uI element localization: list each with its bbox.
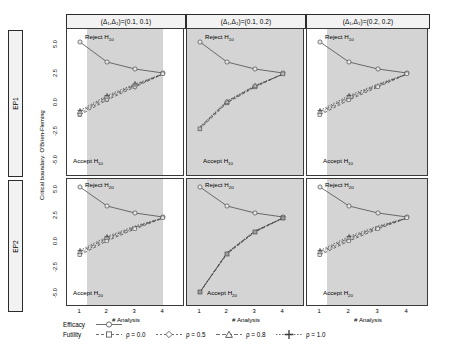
x-tick-col3-2: 2 bbox=[343, 308, 353, 314]
annotation-reject-sub: 10 bbox=[109, 37, 114, 42]
shaded-region bbox=[327, 179, 427, 305]
annotation-accept-ep2-col3: Accept H20 bbox=[323, 289, 353, 298]
annotation-accept-ep1-col1: Accept H10 bbox=[73, 157, 103, 166]
futility-marker-square bbox=[281, 72, 285, 76]
annotation-reject-text: Reject H bbox=[85, 33, 109, 40]
x-tick-col2-1: 1 bbox=[194, 308, 204, 314]
futility-marker-square bbox=[281, 216, 285, 220]
efficacy-marker bbox=[225, 60, 229, 64]
x-tick-col1-2: 2 bbox=[101, 308, 111, 314]
legend-rho-00: ρ = 0.0 bbox=[126, 331, 146, 338]
efficacy-marker bbox=[376, 67, 380, 71]
annotation-accept-ep2-col1: Accept H20 bbox=[73, 289, 103, 298]
y-tick-ep1-3: -2.5 bbox=[52, 123, 58, 139]
y-tick-ep2-0: 5.0 bbox=[52, 181, 58, 197]
panel-ep1-col2[interactable]: Reject H10 Accept H10 bbox=[186, 28, 304, 176]
futility-marker-square bbox=[225, 252, 229, 256]
futility-marker-square bbox=[161, 216, 165, 220]
column-header-1: (Δ₁,Δ₂)=(0.1, 0.1) bbox=[66, 14, 186, 29]
x-tick-col2-3: 3 bbox=[249, 308, 259, 314]
panel-ep2-col3[interactable]: Reject H20 Accept H20 bbox=[306, 178, 428, 306]
annotation-reject-text: Reject H bbox=[325, 181, 349, 188]
futility-marker-square bbox=[133, 227, 137, 231]
x-tick-col3-3: 3 bbox=[372, 308, 382, 314]
column-header-2-label: (Δ₁,Δ₂)=(0.1, 0.2) bbox=[221, 18, 271, 25]
annotation-accept-text: Accept H bbox=[73, 289, 98, 296]
x-tick-col1-3: 3 bbox=[129, 308, 139, 314]
row-header-ep2-label: EP2 bbox=[12, 240, 19, 252]
panel-ep1-col1-plot bbox=[67, 29, 183, 175]
x-tick-col3-4: 4 bbox=[401, 308, 411, 314]
annotation-reject-ep2-col1: Reject H20 bbox=[85, 181, 114, 190]
annotation-accept-sub: 20 bbox=[98, 293, 103, 298]
annotation-accept-text: Accept H bbox=[73, 157, 98, 164]
row-header-ep1-label: EP1 bbox=[12, 97, 19, 109]
efficacy-marker bbox=[105, 204, 109, 208]
legend-efficacy-marker bbox=[96, 320, 122, 329]
annotation-reject-ep1-col2: Reject H10 bbox=[205, 33, 234, 42]
annotation-reject-text: Reject H bbox=[205, 33, 229, 40]
futility-marker-square bbox=[161, 72, 165, 76]
y-tick-ep2-3: -2.5 bbox=[52, 259, 58, 275]
x-axis-title-col2: # Analysis bbox=[216, 316, 276, 323]
futility-marker-square bbox=[405, 216, 409, 220]
futility-marker-square bbox=[198, 290, 202, 294]
shaded-region bbox=[187, 29, 303, 175]
unshaded-region bbox=[163, 179, 183, 305]
efficacy-marker bbox=[376, 211, 380, 215]
efficacy-marker bbox=[133, 211, 137, 215]
efficacy-marker bbox=[253, 211, 257, 215]
column-header-3: (Δ₁,Δ₂)=(0.2, 0.2) bbox=[306, 14, 430, 29]
panel-ep1-col1[interactable]: Reject H10 Accept H10 bbox=[66, 28, 184, 176]
y-axis-title: Critical boundary: O'Brien-Fleming bbox=[39, 110, 45, 200]
annotation-accept-sub: 10 bbox=[348, 161, 353, 166]
efficacy-marker bbox=[347, 204, 351, 208]
panel-ep1-col3[interactable]: Reject H10 Accept H10 bbox=[306, 28, 428, 176]
y-tick-ep2-2: 0.0 bbox=[52, 233, 58, 249]
legend-triangle-marker bbox=[216, 330, 242, 339]
annotation-reject-ep2-col2: Reject H20 bbox=[205, 181, 234, 190]
annotation-reject-sub: 20 bbox=[349, 185, 354, 190]
panel-ep2-col1[interactable]: Reject H20 Accept H20 bbox=[66, 178, 184, 306]
panel-ep2-col2[interactable]: Reject H20 Accept H20 bbox=[186, 178, 304, 306]
efficacy-marker bbox=[133, 67, 137, 71]
legend-futility-label: Futility bbox=[63, 331, 81, 338]
futility-marker-square bbox=[376, 227, 380, 231]
panel-ep1-col2-plot bbox=[187, 29, 303, 175]
y-tick-ep1-4: -5.0 bbox=[52, 152, 58, 168]
row-header-ep1: EP1 bbox=[8, 30, 23, 177]
futility-marker-square bbox=[198, 127, 202, 131]
annotation-reject-ep2-col3: Reject H20 bbox=[325, 181, 354, 190]
unshaded-region bbox=[163, 29, 183, 175]
legend-diamond-marker bbox=[156, 330, 182, 339]
futility-marker-square bbox=[376, 85, 380, 89]
futility-marker-square bbox=[405, 72, 409, 76]
annotation-reject-text: Reject H bbox=[205, 181, 229, 188]
y-tick-ep2-4: -5.0 bbox=[52, 285, 58, 301]
row-header-ep2: EP2 bbox=[8, 180, 23, 312]
x-tick-col3-1: 1 bbox=[314, 308, 324, 314]
annotation-accept-ep1-col2: Accept H10 bbox=[203, 157, 233, 166]
y-tick-ep1-2: 0.0 bbox=[52, 94, 58, 110]
x-axis-title-col3: # Analysis bbox=[338, 316, 398, 323]
annotation-reject-ep1-col1: Reject H10 bbox=[85, 33, 114, 42]
x-tick-col2-4: 4 bbox=[277, 308, 287, 314]
panel-ep1-col3-plot bbox=[307, 29, 427, 175]
legend-rho-05: ρ = 0.5 bbox=[186, 331, 206, 338]
x-tick-col1-4: 4 bbox=[157, 308, 167, 314]
legend-plus-marker bbox=[276, 330, 302, 339]
futility-marker-square bbox=[253, 230, 257, 234]
legend-rho-10: ρ = 1.0 bbox=[306, 331, 326, 338]
legend-rho-08: ρ = 0.8 bbox=[246, 331, 266, 338]
y-tick-ep1-1: 2.5 bbox=[52, 65, 58, 81]
annotation-accept-text: Accept H bbox=[203, 157, 228, 164]
efficacy-marker bbox=[105, 60, 109, 64]
annotation-reject-text: Reject H bbox=[85, 181, 109, 188]
annotation-reject-ep1-col3: Reject H10 bbox=[325, 33, 354, 42]
annotation-reject-sub: 20 bbox=[229, 185, 234, 190]
efficacy-marker bbox=[225, 204, 229, 208]
column-header-2: (Δ₁,Δ₂)=(0.1, 0.2) bbox=[186, 14, 306, 29]
annotation-reject-sub: 10 bbox=[229, 37, 234, 42]
annotation-accept-sub: 10 bbox=[228, 161, 233, 166]
annotation-accept-sub: 20 bbox=[348, 293, 353, 298]
